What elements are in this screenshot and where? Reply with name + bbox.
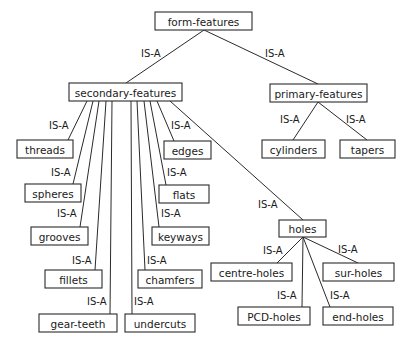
- edge-secondary-features-to-spheres: [73, 101, 93, 184]
- is-a-label: IS-A: [147, 255, 167, 266]
- edge-secondary-features-to-threads: [68, 101, 87, 140]
- node-label: holes: [289, 223, 317, 235]
- edge-secondary-features-to-keyways: [144, 101, 159, 227]
- node-undercuts: undercuts: [125, 314, 195, 332]
- node-chamfers: chamfers: [138, 270, 202, 288]
- connector-line: [302, 237, 303, 307]
- is-a-label: IS-A: [51, 167, 71, 178]
- is-a-label: IS-A: [280, 114, 300, 125]
- node-label: undercuts: [134, 318, 187, 330]
- edge-secondary-features-to-undercuts: [131, 101, 132, 314]
- connector-line: [204, 30, 318, 84]
- node-holes: holes: [279, 220, 326, 237]
- is-a-label: IS-A: [87, 296, 107, 307]
- edge-secondary-features-to-grooves: [80, 101, 99, 227]
- node-label: PCD-holes: [247, 311, 300, 323]
- node-grooves: grooves: [31, 227, 88, 245]
- node-label: keyways: [158, 231, 203, 243]
- is-a-label: IS-A: [57, 208, 77, 219]
- is-a-label: IS-A: [330, 290, 350, 301]
- node-label: edges: [172, 145, 204, 157]
- node-label: primary-features: [274, 88, 362, 100]
- node-label: spheres: [32, 188, 73, 200]
- node-flats: flats: [159, 185, 209, 203]
- connector-line: [126, 30, 204, 83]
- connector-line: [137, 101, 145, 270]
- node-threads: threads: [17, 140, 73, 158]
- connector-line: [131, 101, 132, 314]
- is-a-label: IS-A: [141, 48, 161, 59]
- connector-line: [110, 101, 112, 314]
- node-label: form-features: [168, 16, 240, 28]
- is-a-label: IS-A: [72, 255, 92, 266]
- node-cylinders: cylinders: [262, 140, 325, 158]
- edge-secondary-features-to-chamfers: [137, 101, 145, 270]
- node-label: grooves: [39, 231, 81, 243]
- is-a-label: IS-A: [263, 245, 283, 256]
- node-form-features: form-features: [155, 12, 252, 30]
- node-label: flats: [173, 189, 196, 201]
- is-a-label: IS-A: [258, 199, 278, 210]
- is-a-label: IS-A: [265, 48, 285, 59]
- is-a-label: IS-A: [277, 290, 297, 301]
- node-label: chamfers: [145, 274, 194, 286]
- connector-line: [144, 101, 159, 227]
- node-label: threads: [25, 144, 65, 156]
- node-edges: edges: [164, 141, 211, 159]
- connector-line: [80, 101, 99, 227]
- node-centre-holes: centre-holes: [211, 263, 292, 281]
- is-a-hierarchy-diagram: IS-AIS-AIS-AIS-AIS-AIS-AIS-AIS-AIS-AIS-A…: [0, 0, 414, 344]
- edge-secondary-features-to-gear-teeth: [110, 101, 112, 314]
- edge-secondary-features-to-fillets: [95, 101, 106, 270]
- node-gear-teeth: gear-teeth: [39, 314, 117, 332]
- node-label: gear-teeth: [51, 318, 106, 330]
- node-PCD-holes: PCD-holes: [238, 307, 310, 325]
- node-primary-features: primary-features: [270, 84, 367, 102]
- node-end-holes: end-holes: [323, 307, 393, 325]
- node-label: centre-holes: [219, 267, 284, 279]
- connector-line: [95, 101, 106, 270]
- is-a-label: IS-A: [167, 167, 187, 178]
- node-label: cylinders: [270, 144, 317, 156]
- is-a-label: IS-A: [161, 208, 181, 219]
- edge-form-features-to-secondary-features: [126, 30, 204, 83]
- is-a-label: IS-A: [49, 120, 69, 131]
- connector-line: [68, 101, 87, 140]
- is-a-label: IS-A: [338, 244, 358, 255]
- node-tapers: tapers: [340, 140, 395, 158]
- node-label: secondary-features: [75, 87, 176, 99]
- node-keyways: keyways: [152, 227, 209, 245]
- is-a-label: IS-A: [134, 296, 154, 307]
- nodes-layer: form-featuressecondary-featuresprimary-f…: [17, 12, 395, 332]
- node-fillets: fillets: [45, 270, 102, 288]
- is-a-label: IS-A: [346, 114, 366, 125]
- node-secondary-features: secondary-features: [69, 83, 182, 101]
- node-label: end-holes: [332, 311, 384, 323]
- edge-form-features-to-primary-features: [204, 30, 318, 84]
- is-a-label: IS-A: [171, 120, 191, 131]
- node-label: fillets: [59, 274, 88, 286]
- edge-holes-to-PCD-holes: [302, 237, 303, 307]
- node-spheres: spheres: [25, 184, 81, 202]
- node-label: tapers: [351, 144, 384, 156]
- node-sur-holes: sur-holes: [323, 263, 394, 281]
- node-label: sur-holes: [335, 267, 383, 279]
- connector-line: [73, 101, 93, 184]
